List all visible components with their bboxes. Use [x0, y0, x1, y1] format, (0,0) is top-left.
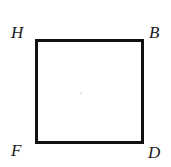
- vertex-label-bottom-right: D: [148, 144, 160, 161]
- scan-artifact-speck: [80, 92, 82, 95]
- vertex-label-top-left: H: [11, 24, 23, 41]
- vertex-label-bottom-left: F: [11, 142, 22, 159]
- geometry-figure: H B F D: [0, 0, 171, 167]
- square-shape: [35, 39, 144, 144]
- vertex-label-top-right: B: [149, 24, 160, 41]
